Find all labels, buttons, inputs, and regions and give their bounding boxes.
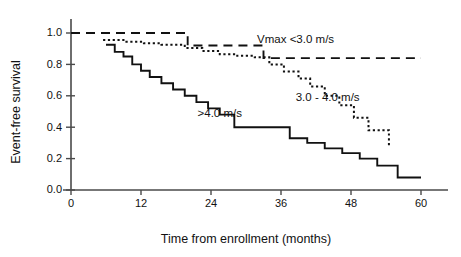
y-axis-tick-label: 0.8 <box>47 58 62 70</box>
series-label-3: >4.0 m/s <box>198 107 243 119</box>
x-axis-tick-label: 24 <box>205 197 217 209</box>
series-label-2: 3.0 - 4.0 m/s <box>296 91 360 103</box>
x-axis-tick-label: 0 <box>68 197 74 209</box>
y-axis-title: Event-free survival <box>9 60 23 164</box>
y-axis-tick-label: 1.0 <box>47 26 62 38</box>
x-axis-tick-label: 36 <box>275 197 287 209</box>
x-axis-tick-label: 12 <box>135 197 147 209</box>
series-container <box>71 33 421 177</box>
series-curve-3 <box>106 45 421 178</box>
y-axis-tick-label: 0.0 <box>47 183 62 195</box>
x-axis-tick-label: 48 <box>345 197 357 209</box>
y-axis-tick-label: 0.2 <box>47 152 62 164</box>
series-label-1: Vmax <3.0 m/s <box>257 33 334 45</box>
x-axis: 01224364860 <box>63 190 448 209</box>
series-label-container: Vmax <3.0 m/s3.0 - 4.0 m/s>4.0 m/s <box>198 33 360 119</box>
chart-canvas: 0.00.20.40.60.81.0 01224364860 Vmax <3.0… <box>0 0 461 257</box>
survival-chart: 0.00.20.40.60.81.0 01224364860 Vmax <3.0… <box>0 0 461 257</box>
y-axis-tick-label: 0.6 <box>47 89 62 101</box>
x-axis-title: Time from enrollment (months) <box>161 232 331 246</box>
x-axis-tick-label: 60 <box>415 197 427 209</box>
y-axis: 0.00.20.40.60.81.0 <box>47 19 75 195</box>
y-axis-tick-label: 0.4 <box>47 121 62 133</box>
